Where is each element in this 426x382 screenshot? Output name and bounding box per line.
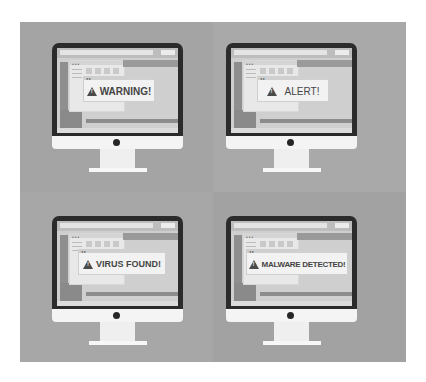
monitor-stand [274, 149, 309, 169]
monitor-chin [226, 136, 357, 149]
window-controls-icon: ●●● [246, 62, 254, 66]
toolbar-button [335, 50, 349, 55]
status-strip [231, 128, 352, 133]
sidebar-block [60, 283, 82, 301]
browser-toolbar [57, 221, 178, 231]
monitor: ●●● ●● MALWARE DETECTED! [226, 216, 357, 346]
monitor-base [89, 168, 147, 172]
window-controls-icon: ●●● [246, 235, 254, 239]
alert-dialog: ●● MALWARE DETECTED! [246, 249, 348, 275]
monitor-bezel: ●●● ●● VIRUS FOUND! [52, 216, 183, 310]
warning-triangle-icon [249, 260, 259, 269]
header-bar [297, 60, 352, 67]
panel-warning: ●●● ●● WARNING! [20, 22, 213, 192]
footer-bar [86, 292, 178, 296]
warning-triangle-icon [83, 260, 93, 269]
monitor-chin [52, 136, 183, 149]
alert-message: VIRUS FOUND! [96, 259, 161, 269]
sidebar-block [60, 110, 82, 128]
monitor-screen: ●●● ●● WARNING! [57, 48, 178, 133]
browser-toolbar [57, 48, 178, 58]
monitor-bezel: ●●● ●● MALWARE DETECTED! [226, 216, 357, 310]
header-bar [123, 233, 178, 240]
monitor: ●●● ●● VIRUS FOUND! [52, 216, 183, 346]
browser-toolbar [231, 48, 352, 58]
toolbar-button [161, 223, 175, 228]
monitor-stand [100, 322, 135, 342]
camera-icon [113, 312, 120, 319]
monitor: ●●● ●● ALERT! [226, 43, 357, 173]
alert-message: MALWARE DETECTED! [262, 260, 346, 269]
header-bar [297, 233, 352, 240]
monitor-stand [274, 322, 309, 342]
monitor-base [89, 341, 147, 345]
sidebar-block [234, 283, 256, 301]
header-bar [123, 60, 178, 67]
status-strip [57, 128, 178, 133]
panel-virus: ●●● ●● VIRUS FOUND! [20, 192, 213, 362]
status-strip [57, 301, 178, 306]
monitor-bezel: ●●● ●● WARNING! [52, 43, 183, 137]
footer-bar [260, 119, 352, 123]
sidebar-block [234, 110, 256, 128]
toolbar-button [335, 223, 349, 228]
alert-dialog: ●● WARNING! [83, 76, 155, 102]
monitor: ●●● ●● WARNING! [52, 43, 183, 173]
status-strip [231, 301, 352, 306]
alert-dialog: ●● ALERT! [257, 76, 329, 102]
address-bar [60, 223, 153, 228]
monitor-screen: ●●● ●● VIRUS FOUND! [57, 221, 178, 306]
panel-malware: ●●● ●● MALWARE DETECTED! [213, 192, 406, 362]
camera-icon [287, 139, 294, 146]
monitor-screen: ●●● ●● ALERT! [231, 48, 352, 133]
alert-message: WARNING! [100, 86, 152, 97]
address-bar [234, 223, 327, 228]
monitor-chin [226, 309, 357, 322]
monitor-base [263, 341, 321, 345]
monitor-screen: ●●● ●● MALWARE DETECTED! [231, 221, 352, 306]
camera-icon [287, 312, 294, 319]
warning-triangle-icon [87, 87, 97, 96]
monitor-stand [100, 149, 135, 169]
footer-bar [86, 119, 178, 123]
window-controls-icon: ●●● [72, 62, 80, 66]
address-bar [60, 50, 153, 55]
alert-dialog: ●● VIRUS FOUND! [78, 249, 166, 275]
browser-toolbar [231, 221, 352, 231]
camera-icon [113, 139, 120, 146]
toolbar-button [161, 50, 175, 55]
footer-bar [260, 292, 352, 296]
address-bar [234, 50, 327, 55]
panel-alert: ●●● ●● ALERT! [213, 22, 406, 192]
warning-triangle-icon [267, 87, 277, 96]
monitor-base [263, 168, 321, 172]
window-controls-icon: ●●● [72, 235, 80, 239]
monitor-bezel: ●●● ●● ALERT! [226, 43, 357, 137]
alert-message: ALERT! [285, 86, 320, 97]
monitor-chin [52, 309, 183, 322]
